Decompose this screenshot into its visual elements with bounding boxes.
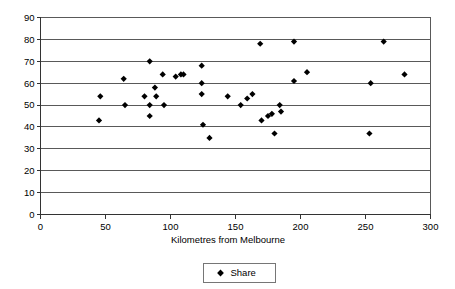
y-tick-label-10: 10 [24, 187, 35, 198]
x-tick-label-50: 50 [100, 221, 111, 232]
x-tick-label-250: 250 [358, 221, 374, 232]
y-tick-label-0: 0 [29, 209, 34, 220]
x-tick-label-300: 300 [423, 221, 439, 232]
y-tick-label-70: 70 [24, 56, 35, 67]
y-tick-label-60: 60 [24, 78, 35, 89]
legend-label: Share [231, 267, 256, 278]
y-tick-label-20: 20 [24, 165, 35, 176]
x-tick-label-200: 200 [293, 221, 309, 232]
chart-canvas: 0102030405060708090 050100150200250300 K… [0, 0, 455, 289]
x-tick-label-100: 100 [163, 221, 179, 232]
chart-legend: Share [204, 264, 276, 283]
y-tick-label-90: 90 [24, 12, 35, 23]
y-tick-label-80: 80 [24, 34, 35, 45]
x-tick-label-150: 150 [228, 221, 244, 232]
y-tick-label-30: 30 [24, 143, 35, 154]
y-tick-label-50: 50 [24, 99, 35, 110]
scatter-chart: 0102030405060708090 050100150200250300 K… [0, 0, 455, 289]
chart-background [0, 0, 455, 289]
y-tick-label-40: 40 [24, 121, 35, 132]
x-tick-label-0: 0 [38, 221, 43, 232]
x-axis-title: Kilometres from Melbourne [171, 234, 285, 245]
